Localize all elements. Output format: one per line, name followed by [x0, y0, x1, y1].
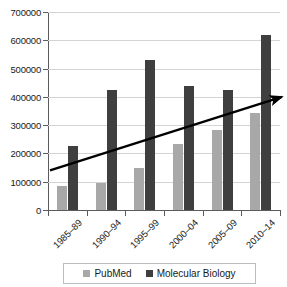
x-axis-tick-mark: [87, 211, 88, 216]
x-axis-tick-mark: [241, 211, 242, 216]
bar: [57, 186, 67, 210]
y-axis-tick-label: 200000: [10, 148, 41, 159]
x-axis-category-label: 1990–94: [89, 217, 122, 250]
legend-item-pubmed[interactable]: PubMed: [83, 268, 131, 279]
x-axis-category-label: 2010–14: [244, 217, 277, 250]
bar: [96, 183, 106, 210]
bar: [261, 35, 271, 210]
chart-legend: PubMedMolecular Biology: [63, 263, 256, 284]
legend-label: Molecular Biology: [157, 268, 236, 279]
y-axis-tick-label: 100000: [10, 176, 41, 187]
gridline: [48, 182, 280, 183]
plot-area: [48, 12, 280, 210]
x-axis-tick-mark: [203, 211, 204, 216]
y-axis-tick-labels: 0100000200000300000400000500000600000700…: [0, 0, 41, 287]
gridline: [48, 153, 280, 154]
legend-swatch-icon: [146, 270, 153, 277]
x-axis-category-label: 2000–04: [167, 217, 200, 250]
x-axis-tick-mark: [164, 211, 165, 216]
x-axis-tick-mark: [125, 211, 126, 216]
bar: [212, 130, 222, 210]
y-axis-tick-label: 400000: [10, 91, 41, 102]
bar: [134, 168, 144, 210]
legend-label: PubMed: [94, 268, 131, 279]
gridline: [48, 97, 280, 98]
bar: [223, 90, 233, 210]
bar: [184, 86, 194, 210]
bar: [107, 90, 117, 210]
x-axis-tick-mark: [48, 211, 49, 216]
bar: [68, 146, 78, 210]
gridline: [48, 69, 280, 70]
gridline: [48, 125, 280, 126]
x-axis-category-label: 1985–89: [51, 217, 84, 250]
gridline: [48, 40, 280, 41]
bar: [250, 113, 260, 210]
y-axis-tick-label: 600000: [10, 35, 41, 46]
legend-swatch-icon: [83, 270, 90, 277]
legend-item-molecular-biology[interactable]: Molecular Biology: [146, 268, 236, 279]
x-axis-category-label: 1995–99: [128, 217, 161, 250]
x-axis-tick-mark: [280, 211, 281, 216]
y-axis-tick-label: 0: [36, 205, 41, 216]
gridline: [48, 12, 280, 13]
x-axis-category-label: 2005–09: [205, 217, 238, 250]
y-axis-tick-label: 500000: [10, 63, 41, 74]
y-axis-tick-label: 700000: [10, 7, 41, 18]
bar: [173, 144, 183, 210]
bar: [145, 60, 155, 210]
y-axis-tick-label: 300000: [10, 120, 41, 131]
bar-chart: 0100000200000300000400000500000600000700…: [0, 0, 287, 287]
